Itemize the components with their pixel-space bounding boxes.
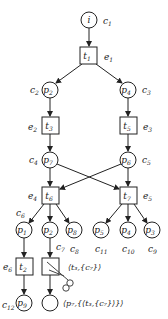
- place-p3: p3: [144, 222, 160, 238]
- arc-t1-p2: [56, 64, 82, 83]
- svg-text:c8: c8: [70, 244, 79, 255]
- arc-t1-p4: [96, 64, 122, 83]
- arc-p7-t7: [57, 164, 119, 189]
- svg-text:c5: c5: [142, 155, 151, 166]
- transition-t7: t7: [120, 187, 137, 204]
- arc-t6-p8: [56, 204, 69, 223]
- transition-t2: t2: [16, 258, 33, 275]
- svg-text:c1: c1: [103, 16, 112, 27]
- place-p5: p5: [93, 222, 109, 238]
- transition-t3: t3: [42, 117, 59, 134]
- svg-text:c7: c7: [56, 242, 65, 253]
- svg-text:c12: c12: [2, 300, 15, 311]
- place-p4: p4: [120, 82, 136, 98]
- place-p6: p6: [120, 152, 136, 168]
- svg-text:c2: c2: [30, 85, 39, 96]
- place-p7: p7: [42, 152, 58, 168]
- svg-text:e4: e4: [28, 191, 37, 202]
- place-p4-second: p4: [120, 222, 136, 238]
- place-i: i: [81, 12, 97, 28]
- svg-text:e2: e2: [28, 122, 37, 133]
- svg-text:i: i: [88, 15, 91, 25]
- cut-event-annotation: ⟨t₃,{c₇}⟩: [68, 263, 101, 272]
- svg-text:e3: e3: [143, 122, 152, 133]
- arc-t7-p5: [106, 204, 122, 223]
- svg-text:e1: e1: [104, 52, 113, 63]
- place-p2-second: p2: [42, 222, 58, 238]
- place-p1: p1: [16, 222, 32, 238]
- place-p2: p2: [42, 82, 58, 98]
- svg-text:c6: c6: [16, 208, 25, 219]
- place-p8: p8: [66, 222, 82, 238]
- svg-text:c9: c9: [148, 244, 157, 255]
- petri-net-diagram: i p2 p4 p7 p6 p1 p2 p8: [0, 0, 168, 319]
- transition-t5: t5: [120, 117, 137, 134]
- place-empty: [42, 295, 58, 311]
- cut-condition-annotation: ⟨p₇,{⟨t₃,{c₇}⟩}⟩: [63, 299, 123, 308]
- svg-text:c4: c4: [29, 155, 38, 166]
- svg-text:e5: e5: [143, 191, 152, 202]
- svg-text:c3: c3: [142, 85, 151, 96]
- arc-t7-p3: [134, 204, 147, 223]
- svg-text:c10: c10: [122, 244, 135, 255]
- transition-t1: t1: [80, 47, 97, 64]
- place-p9: p9: [16, 295, 32, 311]
- arc-p6-t6: [60, 164, 121, 189]
- transition-t6: t6: [42, 187, 59, 204]
- svg-text:e6: e6: [3, 262, 12, 273]
- arc-t6-p1: [29, 204, 44, 223]
- svg-text:c11: c11: [95, 244, 108, 255]
